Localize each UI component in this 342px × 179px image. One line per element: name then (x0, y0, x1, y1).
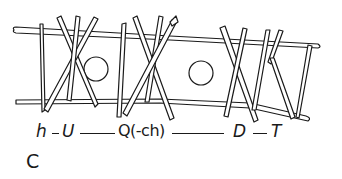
circle-left (84, 57, 108, 81)
tally-stick-diagram (0, 0, 342, 179)
label-t: T (271, 123, 281, 140)
panel-label: C (26, 150, 39, 172)
dash-h-u (52, 133, 59, 134)
label-u: U (62, 123, 74, 140)
dash-d-t (253, 133, 267, 134)
label-q: Q(-ch) (118, 123, 165, 139)
stick-group-q (117, 16, 178, 120)
dash-q-d (172, 133, 224, 134)
label-h: h (36, 123, 47, 140)
circle-right (189, 61, 213, 85)
label-d: D (233, 123, 246, 140)
bottom-rail (16, 99, 310, 121)
dash-u-q (80, 133, 115, 134)
